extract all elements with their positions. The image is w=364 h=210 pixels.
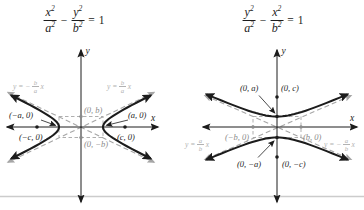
- diagram-left: y x (0, b) (0, −b) (−a, 0) (a, 0) (−c, 0…: [7, 46, 158, 202]
- label-top-vertex: (0, a): [240, 83, 259, 93]
- figure-canvas: x2 a2 − y2 b2 = 1 y2 a2 − x2 b2 = 1 y = …: [0, 0, 364, 210]
- pointer-to-bottom-vertex: [258, 141, 274, 158]
- x-axis-label-right: x: [349, 113, 355, 123]
- label-vertex-right: (a, 0): [128, 110, 147, 120]
- point-0-b: [79, 115, 82, 118]
- diagram-right: y x (0, a) (0, c) (−b, 0) (b, 0) (0, −a)…: [203, 46, 357, 202]
- pointer-to-top-vertex: [259, 96, 275, 114]
- pointer-to-right-vertex: [107, 120, 129, 125]
- pointer-to-left-vertex: [41, 120, 56, 125]
- label-focus-left: (−c, 0): [19, 132, 43, 142]
- x-axis-label-left: x: [150, 113, 156, 123]
- point-0-negb: [79, 136, 82, 139]
- point-negb-0: [251, 125, 254, 128]
- focus-left-dot: [35, 125, 39, 129]
- focus-right-dot: [123, 125, 127, 129]
- vertex-top-dot: [275, 115, 279, 119]
- label-focus-right: (c, 0): [117, 132, 135, 142]
- diagram-svg: y x (0, b) (0, −b) (−a, 0) (a, 0) (−c, 0…: [0, 0, 364, 210]
- label-b-0: (b, 0): [303, 132, 322, 142]
- label-negb-0: (−b, 0): [225, 132, 249, 142]
- label-0-b: (0, b): [84, 105, 103, 115]
- point-b-0: [299, 125, 302, 128]
- vertex-bottom-dot: [275, 136, 279, 140]
- label-vertex-left: (−a, 0): [9, 110, 33, 120]
- label-bottom-focus: (0, −c): [282, 159, 306, 169]
- focus-bottom-dot: [275, 155, 279, 159]
- y-axis-label-right: y: [281, 46, 287, 56]
- y-axis-label-left: y: [85, 46, 91, 56]
- focus-top-dot: [275, 95, 279, 99]
- label-bottom-vertex: (0, −a): [237, 159, 261, 169]
- label-0-negb: (0, −b): [84, 139, 108, 149]
- label-top-focus: (0, c): [281, 83, 299, 93]
